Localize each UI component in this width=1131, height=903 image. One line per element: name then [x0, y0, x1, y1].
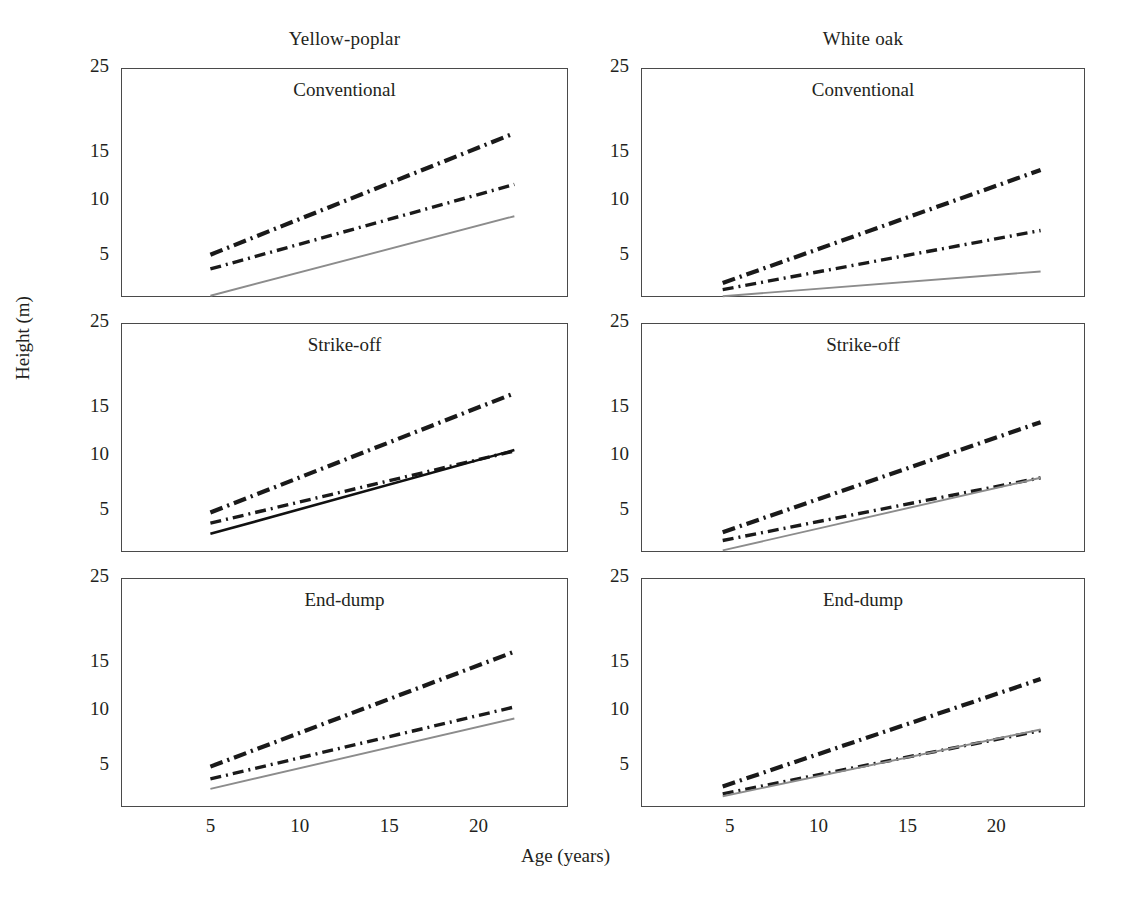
plot-panel-yellow-poplar-strike-off: Strike-off: [121, 323, 568, 552]
x-tick-label: 5: [700, 815, 760, 837]
plot-panel-yellow-poplar-end-dump: End-dump: [121, 578, 568, 807]
y-tick-label: 15: [49, 650, 109, 672]
y-tick-label: 25: [49, 310, 109, 332]
panel-title-yellow-poplar-end-dump: End-dump: [122, 589, 567, 611]
y-tick-label: 5: [49, 753, 109, 775]
y-tick-label: 5: [569, 243, 629, 265]
y-tick-label: 25: [569, 55, 629, 77]
y-tick-label: 10: [569, 188, 629, 210]
plot-panel-white-oak-end-dump: End-dump: [641, 578, 1085, 807]
plot-panel-white-oak-strike-off: Strike-off: [641, 323, 1085, 552]
y-tick-label: 10: [49, 698, 109, 720]
column-title-yellow-poplar: Yellow-poplar: [121, 28, 568, 50]
column-title-white-oak: White oak: [641, 28, 1085, 50]
x-tick-label: 15: [359, 815, 419, 837]
y-tick-label: 15: [569, 395, 629, 417]
y-tick-label: 10: [49, 443, 109, 465]
y-axis-label: Height (m): [12, 160, 34, 380]
x-tick-label: 20: [966, 815, 1026, 837]
y-tick-label: 25: [569, 310, 629, 332]
y-tick-label: 15: [569, 650, 629, 672]
y-tick-label: 10: [569, 698, 629, 720]
x-tick-label: 15: [877, 815, 937, 837]
y-tick-label: 25: [49, 55, 109, 77]
y-tick-label: 5: [49, 243, 109, 265]
x-tick-label: 5: [180, 815, 240, 837]
y-tick-label: 25: [569, 565, 629, 587]
panel-title-white-oak-strike-off: Strike-off: [642, 334, 1084, 356]
y-tick-label: 5: [569, 498, 629, 520]
y-tick-label: 10: [569, 443, 629, 465]
y-tick-label: 25: [49, 565, 109, 587]
x-axis-label: Age (years): [0, 845, 1131, 867]
panel-title-yellow-poplar-strike-off: Strike-off: [122, 334, 567, 356]
y-tick-label: 5: [49, 498, 109, 520]
y-tick-label: 10: [49, 188, 109, 210]
plot-panel-white-oak-conventional: Conventional: [641, 68, 1085, 297]
y-tick-label: 15: [49, 395, 109, 417]
y-tick-label: 5: [569, 753, 629, 775]
panel-title-white-oak-conventional: Conventional: [642, 79, 1084, 101]
x-tick-label: 10: [270, 815, 330, 837]
plot-panel-yellow-poplar-conventional: Conventional: [121, 68, 568, 297]
y-tick-label: 15: [569, 140, 629, 162]
panel-title-yellow-poplar-conventional: Conventional: [122, 79, 567, 101]
x-tick-label: 10: [789, 815, 849, 837]
y-tick-label: 15: [49, 140, 109, 162]
panel-title-white-oak-end-dump: End-dump: [642, 589, 1084, 611]
figure-root: Yellow-poplar White oak Height (m) Age (…: [0, 0, 1131, 903]
x-tick-label: 20: [449, 815, 509, 837]
